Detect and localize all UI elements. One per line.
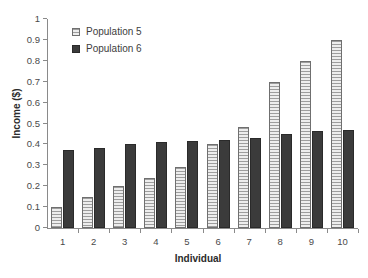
y-axis-tick: 0 bbox=[0, 222, 47, 234]
chart-legend: Population 5Population 6 bbox=[72, 23, 142, 57]
y-axis-tick: 0.8 bbox=[0, 55, 47, 67]
legend-swatch-icon bbox=[72, 45, 80, 53]
x-axis-tick-mark bbox=[78, 229, 79, 233]
y-axis-tick: 0.2 bbox=[0, 180, 47, 192]
x-axis-tick-label: 10 bbox=[327, 236, 357, 247]
y-axis-tick-label: 0.5 bbox=[27, 118, 40, 130]
bar bbox=[281, 134, 292, 228]
legend-item-label: Population 5 bbox=[86, 26, 142, 37]
x-axis-tick-mark bbox=[171, 229, 172, 233]
legend-swatch-icon bbox=[72, 28, 80, 36]
bar bbox=[238, 127, 249, 228]
bar bbox=[331, 40, 342, 228]
bar bbox=[207, 144, 218, 228]
y-axis-tick-label: 0.3 bbox=[27, 159, 40, 171]
y-axis-tick-label: 0.6 bbox=[27, 97, 40, 109]
y-axis-tick-label: 0 bbox=[35, 222, 40, 234]
y-axis-tick: 0.9 bbox=[0, 34, 47, 46]
y-axis-tick: 0.5 bbox=[0, 118, 47, 130]
bar bbox=[187, 141, 198, 228]
x-axis-tick-mark bbox=[358, 229, 359, 233]
bar bbox=[175, 167, 186, 228]
bar bbox=[343, 130, 354, 228]
x-axis-title: Individual bbox=[38, 253, 358, 264]
x-axis-tick-label: 5 bbox=[172, 236, 202, 247]
bar-chart: Income ($) Individual 00.10.20.30.40.50.… bbox=[0, 0, 368, 278]
x-axis-tick-label: 9 bbox=[296, 236, 326, 247]
y-axis-tick: 0.3 bbox=[0, 159, 47, 171]
x-axis-tick-mark bbox=[109, 229, 110, 233]
legend-item: Population 6 bbox=[72, 40, 142, 57]
y-axis-tick-label: 0.4 bbox=[27, 138, 40, 150]
legend-item: Population 5 bbox=[72, 23, 142, 40]
y-axis-tick: 0.4 bbox=[0, 138, 47, 150]
y-axis-tick-label: 0.7 bbox=[27, 76, 40, 88]
y-axis-tick-label: 0.8 bbox=[27, 55, 40, 67]
x-axis-tick-mark bbox=[327, 229, 328, 233]
x-axis-tick-label: 6 bbox=[203, 236, 233, 247]
x-axis-tick-label: 4 bbox=[141, 236, 171, 247]
y-axis-tick-label: 0.9 bbox=[27, 34, 40, 46]
y-axis-tick: 0.6 bbox=[0, 97, 47, 109]
bar bbox=[312, 131, 323, 228]
bar bbox=[250, 138, 261, 228]
x-axis-tick-mark bbox=[265, 229, 266, 233]
x-axis-tick-label: 2 bbox=[79, 236, 109, 247]
bar bbox=[219, 140, 230, 228]
bar bbox=[94, 148, 105, 228]
x-axis-tick-label: 1 bbox=[48, 236, 78, 247]
bar bbox=[51, 207, 62, 228]
y-axis-tick-label: 1 bbox=[35, 13, 40, 25]
y-axis-tick: 1 bbox=[0, 13, 47, 25]
bar bbox=[144, 178, 155, 228]
y-axis-tick: 0.1 bbox=[0, 201, 47, 213]
x-axis-tick-label: 8 bbox=[265, 236, 295, 247]
bar bbox=[82, 197, 93, 228]
x-axis-tick-mark bbox=[140, 229, 141, 233]
bar bbox=[269, 82, 280, 228]
legend-item-label: Population 6 bbox=[86, 43, 142, 54]
bar bbox=[63, 150, 74, 228]
y-axis-tick: 0.7 bbox=[0, 76, 47, 88]
x-axis-tick-mark bbox=[296, 229, 297, 233]
x-axis-tick-label: 7 bbox=[234, 236, 264, 247]
bar bbox=[156, 142, 167, 228]
x-axis-tick-mark bbox=[203, 229, 204, 233]
bar bbox=[125, 144, 136, 228]
bar bbox=[113, 186, 124, 228]
x-axis-tick-label: 3 bbox=[110, 236, 140, 247]
x-axis-tick-mark bbox=[234, 229, 235, 233]
bar bbox=[300, 61, 311, 228]
y-axis-tick-label: 0.1 bbox=[27, 201, 40, 213]
y-axis-tick-label: 0.2 bbox=[27, 180, 40, 192]
